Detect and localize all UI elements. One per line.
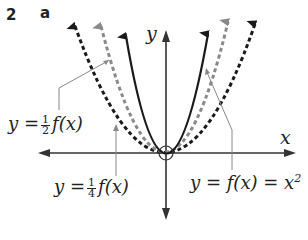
curve-quarter-f bbox=[75, 24, 255, 153]
y-axis bbox=[162, 30, 170, 220]
label-quarter-f: y =14f(x) bbox=[54, 176, 129, 199]
label-half-f: y =12f(x) bbox=[8, 113, 83, 136]
x-axis-left-arrow-icon bbox=[38, 149, 50, 157]
x-axis-right-arrow-icon bbox=[284, 149, 296, 157]
y-axis-label: y bbox=[146, 22, 157, 44]
x-axis-label: x bbox=[280, 126, 291, 148]
label-f: y = f(x) = x2 bbox=[190, 172, 301, 193]
leader-half bbox=[59, 60, 109, 110]
y-axis-down-arrow-icon bbox=[162, 208, 170, 220]
curve-f bbox=[126, 34, 208, 154]
y-axis-up-arrow-icon bbox=[162, 30, 170, 42]
